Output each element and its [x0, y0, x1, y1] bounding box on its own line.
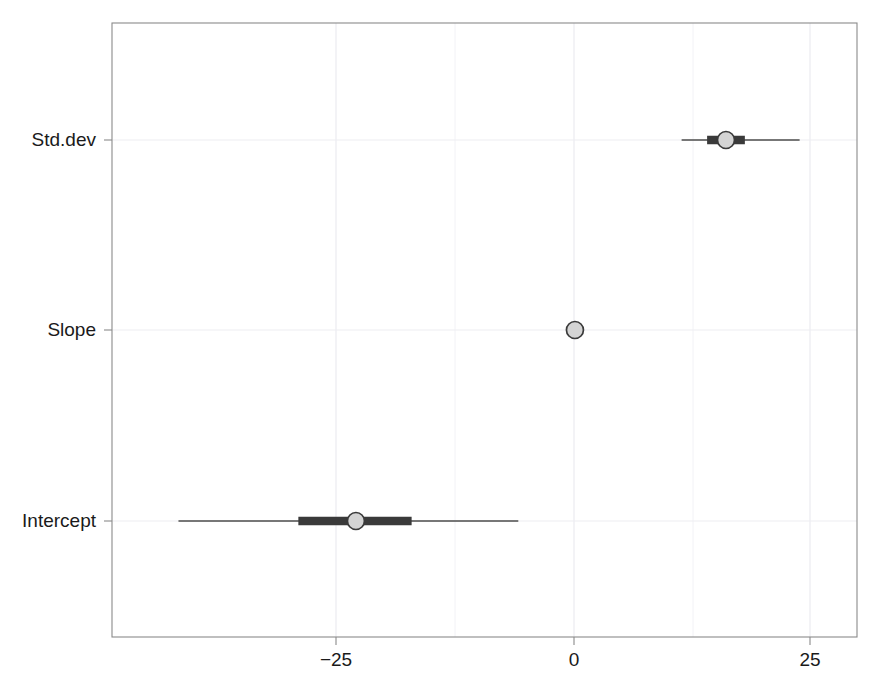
- y-axis-label-std-dev: Std.dev: [32, 129, 97, 150]
- x-axis-label-25: 25: [799, 649, 820, 670]
- interval-plot-figure: Std.dev Slope Intercept −25 0 25: [0, 0, 880, 688]
- x-axis-label-neg25: −25: [320, 649, 352, 670]
- point-estimate-std-dev: [717, 132, 734, 149]
- point-estimate-slope: [566, 322, 583, 339]
- point-estimate-intercept: [347, 513, 364, 530]
- y-axis-label-intercept: Intercept: [22, 510, 97, 531]
- x-axis-label-0: 0: [569, 649, 580, 670]
- interval-plot-canvas: Std.dev Slope Intercept −25 0 25: [0, 0, 880, 688]
- y-axis-label-slope: Slope: [47, 319, 96, 340]
- interval-group-slope: [566, 322, 583, 339]
